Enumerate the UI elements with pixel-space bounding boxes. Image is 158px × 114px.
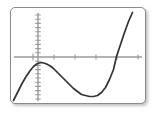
- calculator-screen-frame: [10, 7, 146, 104]
- graph-plot: [11, 8, 144, 102]
- calculator-screenshot: [0, 0, 158, 114]
